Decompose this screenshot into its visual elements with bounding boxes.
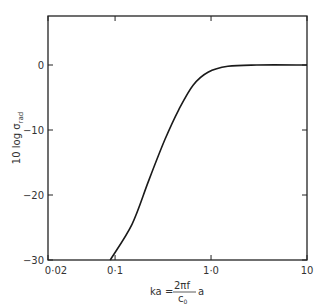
chart: 0−10−20−300·020·11·010 10 log σrad ka = … [0, 0, 323, 306]
svg-text:ka =: ka = [150, 286, 173, 297]
y-tick-label: −20 [23, 190, 44, 201]
y-axis-label: 10 log σrad [11, 112, 25, 164]
svg-text:10 log σrad: 10 log σrad [11, 112, 25, 164]
axis-ticks [48, 16, 307, 260]
x-tick-label: 0·1 [107, 265, 123, 276]
x-tick-label: 10 [301, 265, 314, 276]
y-tick-label: −10 [23, 125, 44, 136]
tick-labels: 0−10−20−300·020·11·010 [23, 60, 313, 277]
x-axis-label: ka = 2πf c0 a [150, 280, 204, 305]
plot-frame [48, 16, 307, 260]
svg-text:a: a [198, 286, 204, 297]
x-tick-label: 1·0 [203, 265, 219, 276]
svg-text:c0: c0 [178, 293, 188, 305]
svg-text:2πf: 2πf [174, 280, 190, 291]
y-tick-label: 0 [38, 60, 44, 71]
x-tick-label: 0·02 [45, 265, 67, 276]
y-tick-label: −30 [23, 255, 44, 266]
data-line [110, 65, 307, 260]
